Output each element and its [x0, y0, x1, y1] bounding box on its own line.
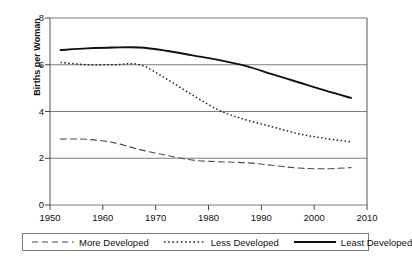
y-tick-label: 6 [30, 59, 44, 70]
series-line-least-developed [61, 47, 352, 98]
x-tick-label: 2000 [298, 212, 330, 223]
series-line-less-developed [61, 62, 352, 141]
x-tick-label: 1960 [87, 212, 119, 223]
x-axis-ticks [50, 205, 367, 210]
x-tick-label: 1970 [140, 212, 172, 223]
legend-label-less-developed: Less Developed [211, 237, 279, 248]
chart-legend: More Developed Less Developed Least Deve… [22, 233, 369, 251]
y-tick-label: 8 [30, 12, 44, 23]
y-tick-label: 0 [30, 199, 44, 210]
series-line-more-developed [61, 139, 352, 169]
legend-item-least-developed[interactable]: Least Developed [293, 234, 412, 250]
y-tick-label: 2 [30, 152, 44, 163]
legend-item-less-developed[interactable]: Less Developed [163, 234, 279, 250]
y-axis-ticks [45, 18, 50, 205]
x-tick-label: 1980 [193, 212, 225, 223]
x-tick-label: 1990 [245, 212, 277, 223]
figure-caption [2, 259, 391, 267]
legend-label-least-developed: Least Developed [341, 237, 412, 248]
y-tick-label: 4 [30, 106, 44, 117]
x-tick-label: 2010 [351, 212, 383, 223]
legend-item-more-developed[interactable]: More Developed [31, 234, 149, 250]
legend-swatch-dotted-icon [163, 237, 207, 247]
legend-swatch-solid-icon [293, 237, 337, 247]
data-series-group [61, 47, 352, 169]
gridlines [50, 18, 367, 205]
legend-label-more-developed: More Developed [79, 237, 149, 248]
legend-swatch-dashed-icon [31, 237, 75, 247]
x-tick-label: 1950 [34, 212, 66, 223]
